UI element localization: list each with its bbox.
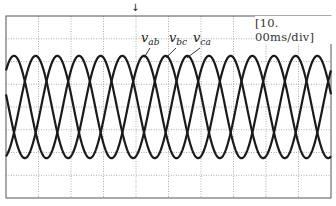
label-vbc: vbc [169,30,187,47]
label-leader-lines [144,48,200,58]
timebase-label: [10. 00ms/div] [255,16,336,44]
label-vab-sub: ab [148,37,159,47]
label-vca: vca [193,30,211,47]
leader-line [187,48,200,58]
trigger-marker-icon: ↓ [131,2,139,13]
label-vab: vab [141,30,160,47]
leader-line [166,48,176,58]
label-vca-sub: ca [200,37,210,47]
label-vbc-sub: bc [176,37,187,47]
